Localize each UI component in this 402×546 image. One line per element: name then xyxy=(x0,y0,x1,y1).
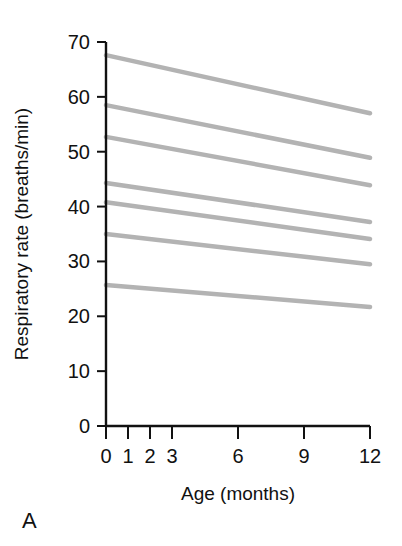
x-tick-label: 9 xyxy=(298,445,309,467)
x-tick-label: 3 xyxy=(166,445,177,467)
chart-svg: 010203040506070 01236912 Respiratory rat… xyxy=(0,0,402,546)
x-tick-label: 6 xyxy=(232,445,243,467)
y-tick-label: 0 xyxy=(79,415,90,437)
x-tick-label: 12 xyxy=(359,445,381,467)
x-tick-label: 1 xyxy=(122,445,133,467)
x-axis-ticks: 01236912 xyxy=(100,426,381,467)
y-tick-label: 30 xyxy=(68,250,90,272)
y-tick-label: 50 xyxy=(68,141,90,163)
y-tick-label: 20 xyxy=(68,305,90,327)
y-tick-label: 40 xyxy=(68,196,90,218)
y-tick-label: 70 xyxy=(68,31,90,53)
x-tick-label: 2 xyxy=(144,445,155,467)
y-tick-label: 60 xyxy=(68,86,90,108)
x-axis-title: Age (months) xyxy=(181,483,295,504)
y-tick-label: 10 xyxy=(68,360,90,382)
x-tick-label: 0 xyxy=(100,445,111,467)
panel-letter: A xyxy=(22,508,37,533)
y-axis-title: Respiratory rate (breaths/min) xyxy=(11,108,32,360)
y-axis-ticks: 010203040506070 xyxy=(68,31,106,437)
figure-panel-a: 010203040506070 01236912 Respiratory rat… xyxy=(0,0,402,546)
